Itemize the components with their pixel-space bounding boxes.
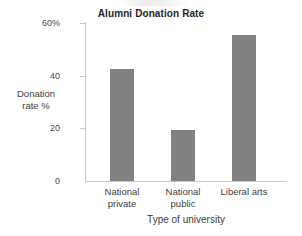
bar-chart-figure: Alumni Donation Rate Donation rate % 60%… [0, 0, 302, 236]
y-axis-label-line-1: Donation [0, 88, 72, 100]
x-category-line-2: public [148, 198, 218, 210]
bar-national-public [171, 130, 195, 181]
x-axis-label: Type of university [85, 214, 287, 225]
x-category-line-1: National [87, 186, 157, 198]
page-scan-artifact [120, 0, 190, 6]
y-tick-label-60: 60% [30, 18, 60, 28]
x-axis-line [85, 181, 287, 182]
y-axis-label: Donation rate % [0, 88, 72, 112]
y-axis-line [85, 22, 86, 182]
y-tick-label-0: 0 [30, 176, 60, 186]
x-category-line-1: National [148, 186, 218, 198]
x-category-line-1: Liberal arts [209, 186, 279, 198]
x-category-line-2: private [87, 198, 157, 210]
bar-national-private [110, 69, 134, 181]
y-tick-mark-40 [80, 76, 85, 77]
bar-liberal-arts [232, 35, 256, 181]
x-category-label-liberal-arts: Liberal arts [209, 186, 279, 198]
y-tick-label-20: 20 [30, 123, 60, 133]
y-tick-mark-60 [80, 23, 85, 24]
y-axis-label-line-2: rate % [0, 100, 72, 112]
x-category-label-national-private: National private [87, 186, 157, 210]
y-tick-mark-20 [80, 128, 85, 129]
y-tick-label-40: 40 [30, 71, 60, 81]
x-category-label-national-public: National public [148, 186, 218, 210]
